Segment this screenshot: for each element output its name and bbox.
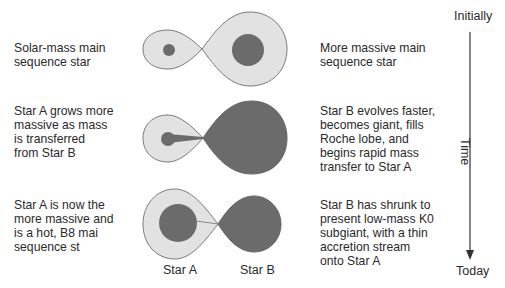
stage-1-star-a	[163, 44, 175, 56]
timeline-start-label: Initially	[454, 9, 492, 23]
stage-1-binary	[143, 12, 287, 86]
stage-3-binary	[143, 189, 281, 259]
star-b-label: Star B	[240, 263, 275, 277]
stage-3-star-a	[159, 204, 197, 242]
binary-star-evolution-diagram	[0, 0, 505, 288]
star-a-label: Star A	[163, 263, 197, 277]
timeline-axis-label: Time	[458, 138, 472, 165]
stage-2-binary	[143, 101, 287, 174]
arrowhead-down-icon	[466, 250, 474, 260]
timeline-end-label: Today	[456, 264, 489, 278]
stage-2-star-b-filling-lobe	[203, 101, 287, 174]
stage-1-star-b	[232, 34, 264, 66]
stage-3-star-b	[218, 196, 281, 252]
